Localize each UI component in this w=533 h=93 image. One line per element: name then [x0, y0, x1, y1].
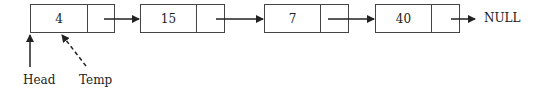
null-label: NULL [484, 11, 521, 25]
temp-pointer-dashed-arrow-icon [62, 35, 86, 66]
head-label: Head [23, 73, 55, 87]
temp-label: Temp [79, 73, 112, 87]
